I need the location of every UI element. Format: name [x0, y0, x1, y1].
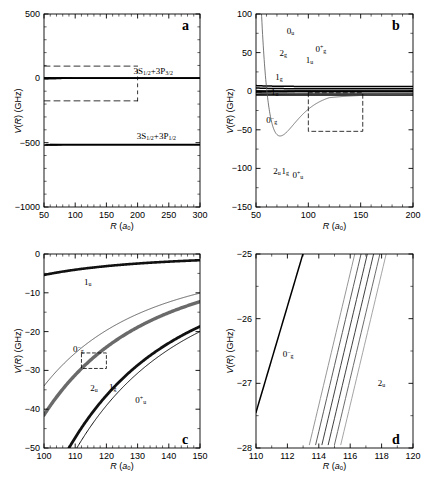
curve-label-0u: 0u: [287, 26, 294, 36]
x-tick-label: 118: [374, 451, 388, 461]
panel-a: V(R) (GHz) R (a0) a 50100150200250300500…: [0, 0, 212, 240]
x-tick-label: 150: [353, 210, 368, 220]
panel-c: V(R) (GHz) R (a0) c 1001101201301401500−…: [0, 240, 212, 481]
y-tick-label: 100: [237, 9, 252, 19]
y-tick-label: −150: [232, 202, 252, 212]
curve-label-2g: 2g: [279, 48, 286, 58]
y-tick-label: −50: [237, 125, 252, 135]
panel-c-xlabel: R (a0): [110, 461, 133, 471]
x-tick-label: 200: [405, 210, 420, 220]
x-tick-label: 110: [68, 451, 82, 461]
x-tick-label: 200: [130, 210, 145, 220]
panel-c-ylabel: V(R) (GHz): [13, 328, 23, 373]
panel-c-id: c: [182, 432, 188, 448]
y-tick-label: −100: [232, 163, 252, 173]
curve-label-0gminus: 0−g: [266, 115, 277, 125]
x-tick-label: 120: [405, 451, 420, 461]
asymptote-lower: 3S1/2+3P1/2: [137, 131, 176, 141]
panel-a-xlabel: R (a0): [110, 221, 133, 231]
y-tick-label: 500: [25, 9, 40, 19]
panel-a-ylabel: V(R) (GHz): [13, 88, 23, 133]
x-tick-label: 250: [161, 210, 176, 220]
figure-root: V(R) (GHz) R (a0) a 50100150200250300500…: [0, 0, 425, 481]
y-tick-label: −500: [20, 138, 40, 148]
curve-label-2u: 2u: [273, 165, 280, 175]
y-tick-label: −27: [237, 378, 252, 388]
y-tick-label: −10: [25, 288, 40, 298]
x-tick-label: 50: [39, 210, 49, 220]
y-tick-label: −28: [237, 443, 252, 453]
panel-d-ylabel: V(R) (GHz): [225, 328, 235, 373]
x-tick-label: 130: [130, 451, 145, 461]
curve-label-1u-upper: 1u: [306, 54, 313, 64]
x-tick-label: 120: [99, 451, 114, 461]
panel-a-id: a: [182, 18, 189, 34]
panel-b: V(R) (GHz) R (a0) b 50100150200100500−50…: [212, 0, 425, 240]
panel-b-id: b: [392, 18, 400, 34]
panel-b-ylabel: V(R) (GHz): [225, 88, 235, 133]
y-tick-label: −30: [25, 365, 40, 375]
x-tick-label: 112: [280, 451, 294, 461]
y-tick-label: 0: [35, 249, 40, 259]
curve-label-2u: 2u: [90, 383, 97, 393]
curve-label-0uplus: 0+u: [135, 394, 146, 404]
panel-d: V(R) (GHz) R (a0) d 110112114116118120−2…: [212, 240, 425, 481]
curve-label-1u-lower: 1u: [271, 87, 278, 97]
x-tick-label: 114: [312, 451, 326, 461]
curve-label-0gminus: 0−g: [283, 349, 294, 359]
y-tick-label: 50: [242, 48, 252, 58]
curve-label-0gminus: 0−g: [73, 344, 84, 354]
panel-d-id: d: [392, 432, 400, 448]
y-tick-label: −40: [25, 404, 40, 414]
y-tick-label: 0: [35, 73, 40, 83]
curve-label-1g: 1g: [275, 71, 282, 81]
y-tick-label: −50: [25, 443, 40, 453]
curve-label-1u: 1u: [84, 277, 91, 287]
y-tick-label: −1000: [15, 202, 40, 212]
x-tick-label: 150: [99, 210, 114, 220]
x-tick-label: 100: [301, 210, 316, 220]
x-tick-label: 100: [68, 210, 83, 220]
y-tick-label: −20: [25, 327, 40, 337]
y-tick-label: 0: [247, 86, 252, 96]
panel-b-xlabel: R (a0): [323, 221, 346, 231]
x-tick-label: 140: [161, 451, 176, 461]
curve-label-1g: 1g: [109, 381, 116, 391]
asymptote-upper: 3S1/2+3P3/2: [134, 65, 173, 75]
panel-d-xlabel: R (a0): [323, 461, 346, 471]
curve-label-0uplus: 0+u: [292, 169, 303, 179]
curve-label-0gplus: 0+g: [315, 43, 326, 53]
y-tick-label: −26: [237, 314, 252, 324]
x-tick-label: 116: [343, 451, 357, 461]
x-tick-label: 50: [251, 210, 261, 220]
x-tick-label: 150: [192, 451, 207, 461]
curve-label-1g-lower: 1g: [282, 165, 289, 175]
curve-label-2u: 2u: [378, 378, 385, 388]
x-tick-label: 300: [192, 210, 207, 220]
y-tick-label: −25: [237, 249, 252, 259]
